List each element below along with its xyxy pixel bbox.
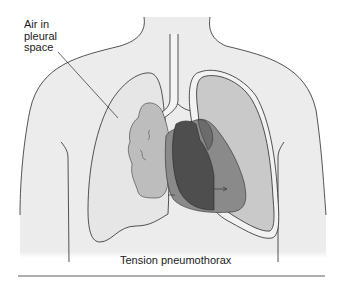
annotation-line-3: space [24, 42, 57, 54]
figure-caption: Tension pneumothorax [120, 254, 231, 266]
annotation-line-1: Air in [24, 19, 57, 31]
figure-canvas: Air in pleural space Tension pneumothora… [0, 0, 342, 288]
annotation-air-in-pleural-space: Air in pleural space [24, 19, 57, 54]
